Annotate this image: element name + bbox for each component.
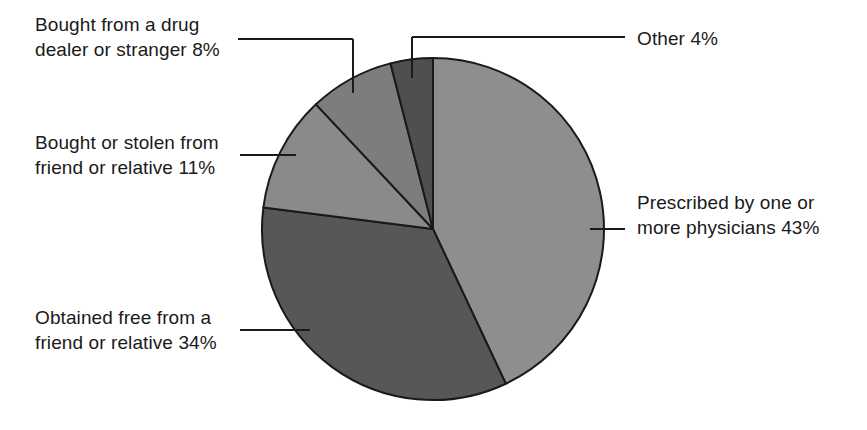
pie-chart-figure: Bought from a drug dealer or stranger 8%… [0,0,867,430]
pie-slice-group [262,58,604,400]
slice-label-other: Other 4% [637,26,847,51]
slice-label-bought-stolen: Bought or stolen from friend or relative… [35,130,250,180]
slice-label-drug-dealer: Bought from a drug dealer or stranger 8% [35,12,250,62]
slice-label-prescribed: Prescribed by one or more physicians 43% [637,190,862,240]
slice-label-obtained-free: Obtained free from a friend or relative … [35,305,250,355]
